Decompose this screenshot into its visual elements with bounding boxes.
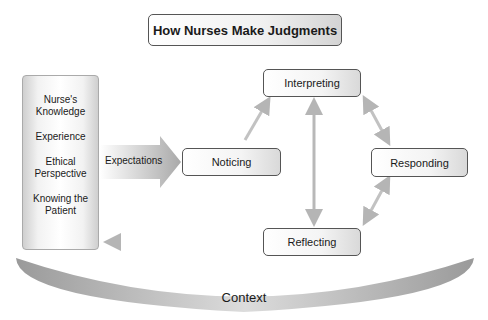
node-responding: Responding: [371, 148, 468, 177]
factor-knowing-patient: Knowing thePatient: [33, 193, 88, 217]
node-noticing: Noticing: [182, 148, 281, 176]
factor-experience: Experience: [35, 131, 85, 143]
factors-box: Nurse'sKnowledge Experience EthicalPersp…: [22, 75, 99, 250]
diagram-title: How Nurses Make Judgments: [148, 14, 342, 46]
factor-nurses-knowledge: Nurse'sKnowledge: [36, 94, 85, 118]
context-label: Context: [0, 290, 488, 305]
factor-ethical-perspective: EthicalPerspective: [34, 156, 86, 180]
node-interpreting: Interpreting: [263, 69, 361, 97]
expectations-label: Expectations: [105, 155, 162, 166]
node-reflecting: Reflecting: [263, 228, 361, 256]
